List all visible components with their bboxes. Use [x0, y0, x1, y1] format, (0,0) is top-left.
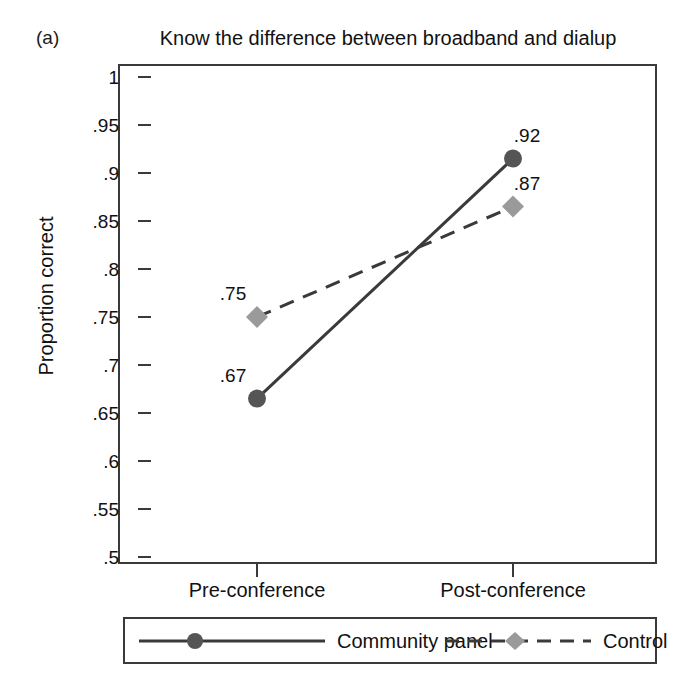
y-tick-mark — [138, 76, 151, 78]
y-tick-mark — [138, 316, 151, 318]
x-tick-mark — [256, 564, 258, 577]
data-point-label: .92 — [514, 125, 540, 144]
dashed-line-icon — [443, 630, 593, 652]
legend-label-control: Control — [603, 631, 667, 651]
y-tick-mark — [138, 460, 151, 462]
data-point-label: .87 — [514, 173, 540, 192]
y-tick-mark — [138, 412, 151, 414]
y-tick-mark — [138, 508, 151, 510]
y-tick-label: 1 — [51, 68, 119, 87]
y-tick-label: .7 — [51, 356, 119, 375]
legend: Community panel Control — [123, 617, 657, 664]
y-tick-label: .95 — [51, 116, 119, 135]
panel-letter: (a) — [36, 28, 59, 47]
y-tick-label: .9 — [51, 164, 119, 183]
x-tick-label: Post-conference — [440, 580, 586, 600]
x-tick-mark — [512, 564, 514, 577]
y-tick-mark — [138, 268, 151, 270]
y-tick-label: .6 — [51, 452, 119, 471]
y-tick-label: .85 — [51, 212, 119, 231]
solid-line-icon — [137, 630, 327, 652]
y-tick-mark — [138, 172, 151, 174]
y-tick-mark — [138, 556, 151, 558]
figure-panel-a: (a) Know the difference between broadban… — [0, 0, 693, 699]
y-tick-mark — [138, 220, 151, 222]
legend-entry-control: Control — [443, 619, 667, 662]
legend-entry-community-panel: Community panel — [137, 619, 493, 662]
y-tick-label: .5 — [51, 548, 119, 567]
data-point-label: .67 — [220, 365, 246, 384]
y-axis-title: Proportion correct — [36, 86, 56, 506]
y-tick-label: .8 — [51, 260, 119, 279]
plot-area — [118, 64, 657, 564]
y-tick-mark — [138, 364, 151, 366]
y-tick-label: .75 — [51, 308, 119, 327]
y-tick-label: .55 — [51, 500, 119, 519]
y-tick-mark — [138, 124, 151, 126]
x-tick-label: Pre-conference — [189, 580, 326, 600]
chart-title: Know the difference between broadband an… — [118, 27, 658, 49]
data-point-label: .75 — [220, 284, 246, 303]
y-tick-label: .65 — [51, 404, 119, 423]
